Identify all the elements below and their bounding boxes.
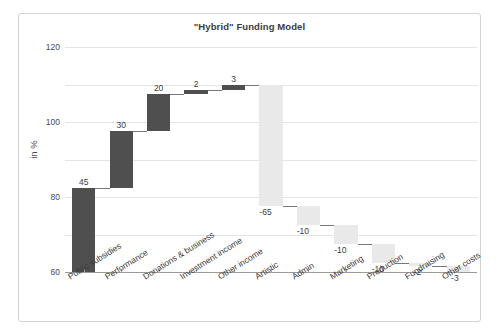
- y-tick-label: 120: [46, 42, 60, 52]
- bar-other-income[interactable]: [222, 85, 245, 91]
- bar-performance[interactable]: [110, 131, 133, 187]
- gridline: 20: [65, 235, 477, 236]
- bar-marketing[interactable]: [334, 225, 357, 244]
- bar-value-label: -10: [334, 245, 346, 255]
- waterfall-connector: [170, 94, 184, 95]
- waterfall-connector: [358, 244, 372, 245]
- waterfall-connector: [432, 266, 446, 267]
- plot-area: 02040608010012045302023-65-10-10-10-2-3: [65, 47, 477, 272]
- waterfall-connector: [320, 225, 334, 226]
- bar-admin[interactable]: [297, 206, 320, 225]
- waterfall-connector: [283, 206, 297, 207]
- bar-value-label: 30: [116, 120, 125, 130]
- x-axis-labels: Public subsidiesPerformanceDonations & b…: [65, 273, 477, 333]
- bar-value-label: 20: [154, 83, 163, 93]
- y-tick-label: 100: [46, 117, 60, 127]
- bar-investment-income[interactable]: [184, 90, 207, 94]
- y-tick-label: 60: [51, 267, 60, 277]
- chart-title: "Hybrid" Funding Model: [19, 21, 480, 32]
- bar-value-label: -65: [259, 207, 271, 217]
- y-tick-label: 80: [51, 192, 60, 202]
- waterfall-connector: [133, 131, 147, 132]
- y-axis-title: in %: [28, 130, 39, 170]
- waterfall-connector: [95, 188, 109, 189]
- bar-value-label: 2: [194, 79, 199, 89]
- bar-value-label: 45: [79, 177, 88, 187]
- chart-frame: "Hybrid" Funding Model in % 020406080100…: [18, 13, 481, 322]
- bar-artistic[interactable]: [259, 85, 282, 207]
- bar-value-label: -10: [297, 226, 309, 236]
- bar-value-label: 3: [231, 74, 236, 84]
- waterfall-connector: [208, 90, 222, 91]
- bar-donations-business[interactable]: [147, 94, 170, 132]
- gridline: 120: [65, 47, 477, 48]
- waterfall-connector: [245, 85, 259, 86]
